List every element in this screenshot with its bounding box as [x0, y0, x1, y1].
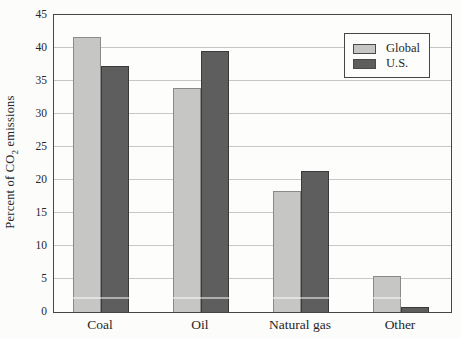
legend-item-global: Global: [353, 41, 429, 56]
scan-artifact-line: [54, 297, 451, 299]
y-tick-label-0: 0: [13, 304, 47, 318]
bar-global-coal: [73, 37, 101, 312]
x-axis-label-oil: Oil: [150, 317, 250, 333]
y-tick-label-45: 45: [13, 7, 47, 21]
bar-group-natural-gas: [273, 171, 329, 312]
bar-global-natural-gas: [273, 191, 301, 312]
bar-group-oil: [173, 51, 229, 312]
legend-item-us: U.S.: [353, 56, 429, 71]
y-tick-label-15: 15: [13, 205, 47, 219]
y-tick-label-35: 35: [13, 73, 47, 87]
bar-u-s-other: [401, 307, 429, 312]
bar-global-other: [373, 276, 401, 312]
x-axis-label-other: Other: [350, 317, 450, 333]
us-series-swatch: [353, 59, 376, 69]
x-axis-label-coal: Coal: [50, 317, 150, 333]
x-axis-label-natural-gas: Natural gas: [250, 317, 350, 333]
y-tick-label-20: 20: [13, 172, 47, 186]
co2-emissions-by-fuel-bar-chart: Percent of CO2 emissions Global U.S. Coa…: [0, 0, 461, 338]
plot-area: Global U.S.: [53, 14, 452, 313]
bar-u-s-coal: [101, 66, 129, 312]
y-tick-label-40: 40: [13, 40, 47, 54]
bar-u-s-oil: [201, 51, 229, 312]
y-tick-label-10: 10: [13, 238, 47, 252]
bar-group-coal: [73, 37, 129, 312]
legend-label-us: U.S.: [386, 56, 408, 71]
legend: Global U.S.: [344, 33, 430, 78]
bar-global-oil: [173, 88, 201, 312]
legend-label-global: Global: [386, 41, 420, 56]
y-tick-label-25: 25: [13, 139, 47, 153]
y-tick-label-5: 5: [13, 271, 47, 285]
bar-group-other: [373, 276, 429, 312]
bar-u-s-natural-gas: [301, 171, 329, 312]
global-series-swatch: [353, 44, 376, 54]
y-tick-label-30: 30: [13, 106, 47, 120]
